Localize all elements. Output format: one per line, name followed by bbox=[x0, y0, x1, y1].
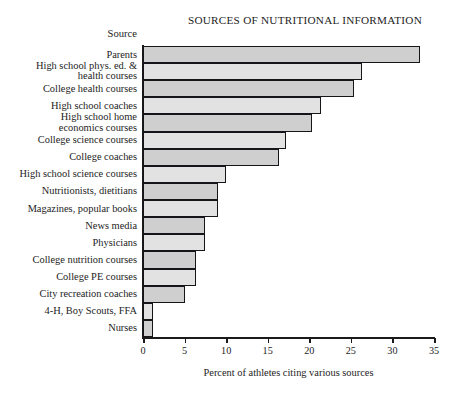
x-tick-label: 10 bbox=[221, 345, 231, 356]
bar bbox=[143, 286, 185, 303]
x-tick bbox=[392, 338, 394, 343]
bar-row: College coaches bbox=[143, 149, 434, 166]
x-tick-label: 20 bbox=[304, 345, 314, 356]
bar-row: Parents bbox=[143, 46, 434, 63]
bar bbox=[143, 80, 354, 97]
bar-row: Nutritionists, dietitians bbox=[143, 183, 434, 200]
x-tick bbox=[143, 338, 145, 343]
bar bbox=[143, 234, 205, 251]
bar bbox=[143, 183, 218, 200]
bar-row: High school coaches bbox=[143, 97, 434, 114]
bar-row: College nutrition courses bbox=[143, 251, 434, 268]
chart-title: SOURCES OF NUTRITIONAL INFORMATION bbox=[160, 14, 450, 26]
bar bbox=[143, 63, 362, 80]
bar-row: High school phys. ed. & health courses bbox=[143, 63, 434, 80]
category-label: Magazines, popular books bbox=[0, 203, 137, 214]
bar-row: 4-H, Boy Scouts, FFA bbox=[143, 303, 434, 320]
x-tick-label: 35 bbox=[429, 345, 439, 356]
x-axis-title: Percent of athletes citing various sourc… bbox=[143, 367, 434, 378]
bar bbox=[143, 114, 312, 131]
bar bbox=[143, 320, 153, 337]
x-tick-label: 15 bbox=[263, 345, 273, 356]
x-tick bbox=[185, 338, 187, 343]
category-label: High school phys. ed. & health courses bbox=[0, 61, 137, 82]
chart-figure: SOURCES OF NUTRITIONAL INFORMATION Sourc… bbox=[0, 0, 462, 401]
category-label: Parents bbox=[0, 49, 137, 60]
bar bbox=[143, 132, 286, 149]
bar-row: College health courses bbox=[143, 80, 434, 97]
bar-row: City recreation coaches bbox=[143, 286, 434, 303]
category-label: College science courses bbox=[0, 135, 137, 146]
x-tick-label: 5 bbox=[182, 345, 187, 356]
bar-row: High school science courses bbox=[143, 166, 434, 183]
x-tick bbox=[434, 338, 436, 343]
bar-row: College science courses bbox=[143, 132, 434, 149]
bar bbox=[143, 303, 153, 320]
bar-rows: ParentsHigh school phys. ed. & health co… bbox=[143, 46, 434, 337]
x-tick-label: 0 bbox=[140, 345, 145, 356]
category-label: College nutrition courses bbox=[0, 255, 137, 266]
category-label: College health courses bbox=[0, 83, 137, 94]
bar bbox=[143, 269, 196, 286]
x-tick bbox=[268, 338, 270, 343]
bar-row: High school home economics courses bbox=[143, 114, 434, 131]
category-label: City recreation coaches bbox=[0, 289, 137, 300]
bar-row: College PE courses bbox=[143, 269, 434, 286]
x-tick-label: 25 bbox=[346, 345, 356, 356]
bar-row: Nurses bbox=[143, 320, 434, 337]
category-label: Nutritionists, dietitians bbox=[0, 186, 137, 197]
category-label: News media bbox=[0, 220, 137, 231]
category-label: High school coaches bbox=[0, 101, 137, 112]
category-label: College coaches bbox=[0, 152, 137, 163]
bar bbox=[143, 251, 196, 268]
category-label: Nurses bbox=[0, 323, 137, 334]
bar-row: Physicians bbox=[143, 234, 434, 251]
category-label: College PE courses bbox=[0, 272, 137, 283]
plot-area: ParentsHigh school phys. ed. & health co… bbox=[143, 46, 434, 337]
category-label: 4-H, Boy Scouts, FFA bbox=[0, 306, 137, 317]
x-axis-ticks: 05101520253035 bbox=[143, 338, 434, 364]
bar bbox=[143, 149, 279, 166]
x-tick bbox=[226, 338, 228, 343]
category-label: High school science courses bbox=[0, 169, 137, 180]
x-tick bbox=[351, 338, 353, 343]
bar bbox=[143, 166, 226, 183]
category-label: Physicians bbox=[0, 238, 137, 249]
bar bbox=[143, 217, 205, 234]
category-axis-title: Source bbox=[0, 28, 137, 39]
x-tick-label: 30 bbox=[387, 345, 397, 356]
bar bbox=[143, 97, 321, 114]
bar bbox=[143, 46, 420, 63]
bar-row: Magazines, popular books bbox=[143, 200, 434, 217]
x-tick bbox=[309, 338, 311, 343]
bar-row: News media bbox=[143, 217, 434, 234]
bar bbox=[143, 200, 218, 217]
category-label: High school home economics courses bbox=[0, 112, 137, 133]
